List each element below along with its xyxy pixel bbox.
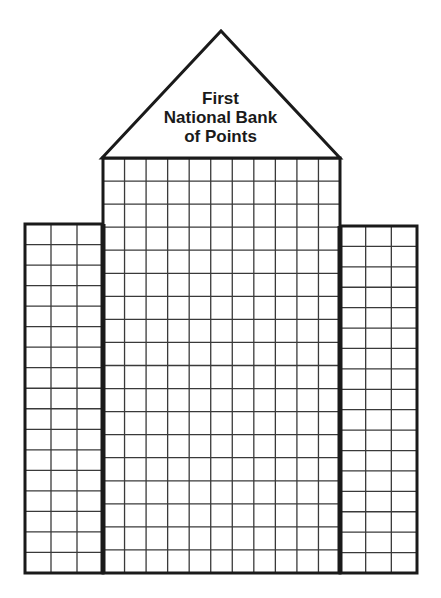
title-line-2: National Bank (0, 108, 441, 127)
right-wing-grid (340, 226, 417, 573)
left-wing-grid (25, 224, 103, 573)
center-tower-grid (103, 158, 340, 573)
title-line-1: First (0, 89, 441, 108)
bank-of-points-chart: First National Bank of Points (0, 0, 441, 598)
title-line-3: of Points (0, 127, 441, 146)
